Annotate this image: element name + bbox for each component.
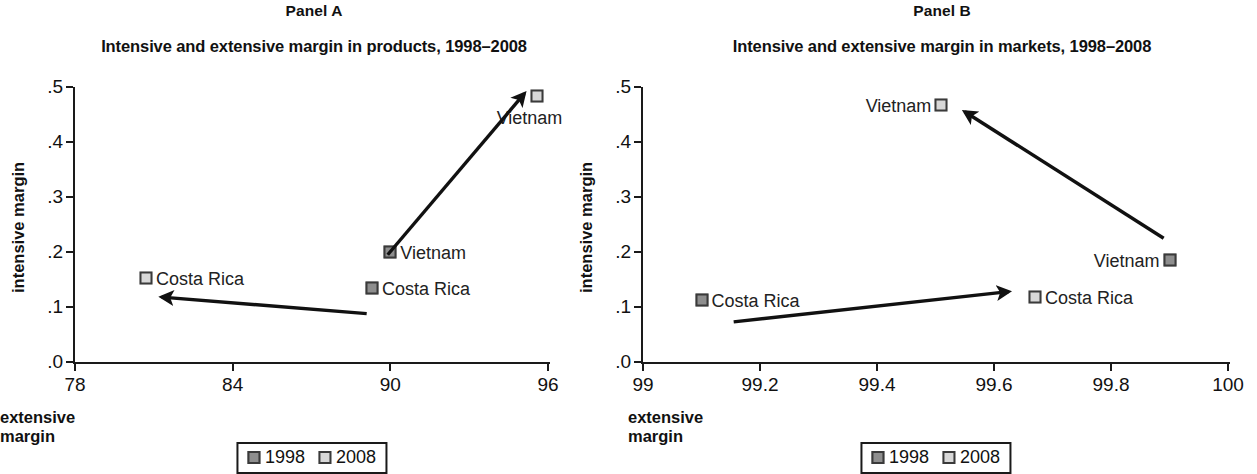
data-point-marker <box>695 293 708 306</box>
panel-b-label: Panel B <box>628 2 1256 20</box>
legend-label: 1998 <box>889 447 929 468</box>
data-point-marker <box>365 281 378 294</box>
x-axis-tick <box>74 364 76 371</box>
data-point-marker <box>384 246 397 259</box>
y-axis-tick-label: .0 <box>27 351 63 373</box>
y-axis-tick <box>66 86 73 88</box>
data-point-label: Vietnam <box>1094 251 1160 272</box>
y-axis-line <box>641 87 643 364</box>
x-axis-tick-label: 99.4 <box>859 374 896 396</box>
y-axis-tick-label: .4 <box>595 131 631 153</box>
data-point-label: Vietnam <box>497 108 563 129</box>
x-axis-tick <box>876 364 878 371</box>
y-axis-tick-label: .0 <box>595 351 631 373</box>
y-axis-tick <box>634 196 641 198</box>
x-axis-tick-label: 99 <box>632 374 653 396</box>
legend-entry: 2008 <box>318 447 376 468</box>
y-axis-tick <box>634 251 641 253</box>
y-axis-tick-label: .3 <box>27 186 63 208</box>
y-axis-tick-label: .2 <box>595 241 631 263</box>
legend-swatch <box>247 451 260 464</box>
figure-container: Panel A Intensive and extensive margin i… <box>0 0 1257 474</box>
x-axis-tick <box>389 364 391 371</box>
y-axis-tick <box>66 361 73 363</box>
legend-entry: 1998 <box>247 447 305 468</box>
vietnam-arrow <box>965 112 1164 239</box>
data-point-marker <box>531 90 544 103</box>
x-axis-tick-label: 99.2 <box>742 374 779 396</box>
y-axis-title: intensive margin <box>9 161 28 292</box>
y-axis-tick <box>66 196 73 198</box>
x-axis-tick <box>993 364 995 371</box>
panel-a-label: Panel A <box>0 2 628 20</box>
y-axis-tick <box>66 306 73 308</box>
y-axis-tick-label: .1 <box>595 296 631 318</box>
data-point-label: Costa Rica <box>382 278 470 299</box>
legend-label: 1998 <box>265 447 305 468</box>
y-axis-tick <box>634 361 641 363</box>
y-axis-tick <box>66 251 73 253</box>
x-axis-tick <box>642 364 644 371</box>
x-axis-tick-label: 99.6 <box>976 374 1013 396</box>
y-axis-tick <box>634 141 641 143</box>
data-point-label: Costa Rica <box>1045 288 1133 309</box>
y-axis-tick-label: .5 <box>595 76 631 98</box>
legend-entry: 1998 <box>871 447 929 468</box>
x-axis-line <box>641 362 1230 364</box>
x-axis-tick <box>1227 364 1229 371</box>
legend-swatch <box>942 451 955 464</box>
panel-a-title: Intensive and extensive margin in produc… <box>0 37 628 56</box>
x-axis-tick <box>1110 364 1112 371</box>
panel-a-arrows <box>0 0 628 474</box>
legend-label: 2008 <box>336 447 376 468</box>
costa-rica-arrow <box>162 297 367 314</box>
legend-swatch <box>871 451 884 464</box>
legend-entry: 2008 <box>942 447 1000 468</box>
panel-a: Panel A Intensive and extensive margin i… <box>0 0 628 474</box>
y-axis-tick-label: .5 <box>27 76 63 98</box>
x-axis-tick-label: 99.8 <box>1093 374 1130 396</box>
x-axis-line <box>73 362 550 364</box>
x-axis-tick-label: 90 <box>380 374 401 396</box>
y-axis-tick-label: .2 <box>27 241 63 263</box>
data-point-label: Vietnam <box>866 95 932 116</box>
y-axis-tick-label: .1 <box>27 296 63 318</box>
y-axis-tick <box>66 141 73 143</box>
x-axis-tick <box>547 364 549 371</box>
x-axis-tick-label: 100 <box>1212 374 1244 396</box>
data-point-marker <box>1028 291 1041 304</box>
y-axis-tick <box>634 86 641 88</box>
x-axis-tick-label: 96 <box>537 374 558 396</box>
legend-swatch <box>318 451 331 464</box>
panel-b-arrows <box>628 0 1256 474</box>
data-point-marker <box>1163 254 1176 267</box>
y-axis-tick <box>634 306 641 308</box>
panel-b: Panel B Intensive and extensive margin i… <box>628 0 1256 474</box>
y-axis-title: intensive margin <box>577 161 596 292</box>
x-axis-tick-label: 78 <box>64 374 85 396</box>
panel-a-legend: 19982008 <box>236 442 387 474</box>
data-point-label: Costa Rica <box>712 290 800 311</box>
data-point-label: Vietnam <box>400 243 466 264</box>
y-axis-tick-label: .3 <box>595 186 631 208</box>
data-point-label: Costa Rica <box>156 269 244 290</box>
y-axis-tick-label: .4 <box>27 131 63 153</box>
panel-b-title: Intensive and extensive margin in market… <box>628 37 1256 56</box>
x-axis-tick <box>759 364 761 371</box>
panel-b-legend: 19982008 <box>860 442 1011 474</box>
x-axis-tick-label: 84 <box>222 374 243 396</box>
y-axis-line <box>73 87 75 364</box>
legend-label: 2008 <box>960 447 1000 468</box>
data-point-marker <box>139 272 152 285</box>
x-axis-tick <box>232 364 234 371</box>
data-point-marker <box>935 98 948 111</box>
